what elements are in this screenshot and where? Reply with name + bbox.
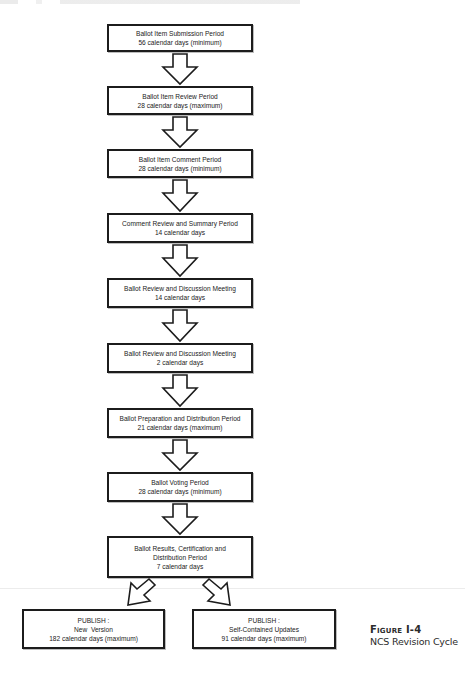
step-title-line2: Distribution Period [153,553,207,562]
step-duration: 28 calendar days (maximum) [137,101,222,110]
step-box-voting-period: Ballot Voting Period 28 calendar days (m… [107,472,253,502]
down-arrow-icon [161,53,199,85]
step-box-review-discussion-meeting-2: Ballot Review and Discussion Meeting 2 c… [107,343,253,373]
figure-title: NCS Revision Cycle [370,636,458,648]
outcome-type: Self-Contained Updates [229,625,299,634]
step-duration: 28 calendar days (minimum) [138,487,221,496]
step-title: Ballot Item Submission Period [136,29,224,38]
figure-label: Figure I-4 [370,624,458,636]
outcome-duration: 91 calendar days (maximum) [221,634,306,643]
page-header-clipped [0,0,300,4]
step-box-comment-period: Ballot Item Comment Period 28 calendar d… [107,149,253,178]
step-duration: 2 calendar days [157,358,204,367]
step-box-review-period: Ballot Item Review Period 28 calendar da… [107,86,253,115]
down-arrow-icon [161,116,199,148]
down-right-arrow-icon [200,578,234,608]
down-arrow-icon [161,309,199,342]
step-title: Ballot Item Review Period [142,92,218,101]
step-duration: 56 calendar days (minimum) [138,38,221,47]
step-duration: 14 calendar days [155,228,205,237]
down-arrow-icon [161,179,199,212]
down-arrow-icon [161,503,199,535]
outcome-label: PUBLISH : [248,616,280,625]
step-title: Ballot Preparation and Distribution Peri… [120,414,241,423]
down-left-arrow-icon [124,578,158,608]
outcome-type: New Version [74,625,113,634]
step-title-line1: Ballot Results, Certification and [134,544,226,553]
outcome-box-self-contained-updates: PUBLISH : Self-Contained Updates 91 cale… [192,609,336,649]
down-arrow-icon [161,374,199,407]
step-duration: 28 calendar days (minimum) [138,164,221,173]
step-box-results-certification-distribution: Ballot Results, Certification and Distri… [107,536,253,578]
step-duration: 14 calendar days [155,293,205,302]
step-box-submission-period: Ballot Item Submission Period 56 calenda… [107,24,253,52]
step-box-comment-review-summary: Comment Review and Summary Period 14 cal… [107,213,253,243]
step-duration: 7 calendar days [157,562,204,571]
step-box-preparation-distribution: Ballot Preparation and Distribution Peri… [107,408,253,438]
down-arrow-icon [161,439,199,471]
step-title: Ballot Item Comment Period [139,155,221,164]
step-title: Ballot Review and Discussion Meeting [124,284,236,293]
step-duration: 21 calendar days (maximum) [137,423,222,432]
step-title: Ballot Review and Discussion Meeting [124,349,236,358]
step-box-review-discussion-meeting-14: Ballot Review and Discussion Meeting 14 … [107,278,253,308]
outcome-duration: 182 calendar days (maximum) [49,634,138,643]
figure-caption: Figure I-4 NCS Revision Cycle [370,624,458,648]
outcome-label: PUBLISH : [78,616,110,625]
outcome-box-new-version: PUBLISH : New Version 182 calendar days … [22,609,165,649]
down-arrow-icon [161,244,199,277]
step-title: Comment Review and Summary Period [122,219,238,228]
step-title: Ballot Voting Period [151,478,209,487]
